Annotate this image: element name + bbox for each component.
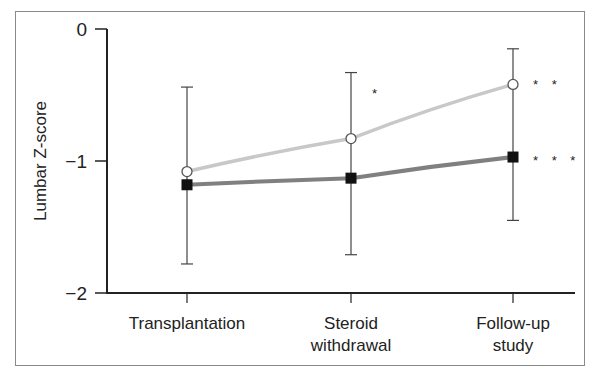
y-tick-label: −1	[65, 151, 87, 172]
significance-stars: *	[372, 86, 382, 101]
significance-stars: * *	[533, 77, 562, 92]
y-axis-label: Lumbar Z-score	[31, 101, 50, 221]
marker-open-circle	[182, 167, 192, 177]
x-category-label: study	[493, 336, 534, 355]
x-category-label: Steroid	[324, 314, 378, 333]
x-category-label: withdrawal	[310, 336, 391, 355]
marker-filled-square	[182, 179, 193, 190]
significance-stars: * * *	[533, 153, 580, 168]
chart-figure: 0−1−2 ** ** * * Lumbar Z-scoreTransplant…	[0, 0, 598, 375]
x-category-label: Follow-up	[476, 314, 550, 333]
y-tick-label: 0	[76, 19, 87, 40]
marker-filled-square	[346, 173, 357, 184]
y-tick-label: −2	[65, 283, 87, 304]
marker-open-circle	[508, 79, 518, 89]
x-category-label: Transplantation	[129, 314, 246, 333]
marker-filled-square	[508, 152, 519, 163]
marker-open-circle	[346, 134, 356, 144]
figure-frame	[16, 12, 585, 366]
